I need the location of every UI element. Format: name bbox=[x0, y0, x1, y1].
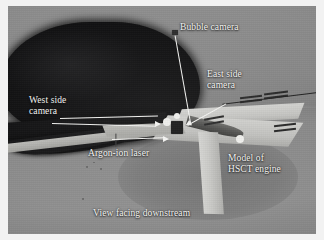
figure-container: Bubble camera East side camera West side… bbox=[0, 0, 324, 240]
vignette-overlay bbox=[8, 6, 316, 234]
photograph: Bubble camera East side camera West side… bbox=[8, 6, 316, 234]
